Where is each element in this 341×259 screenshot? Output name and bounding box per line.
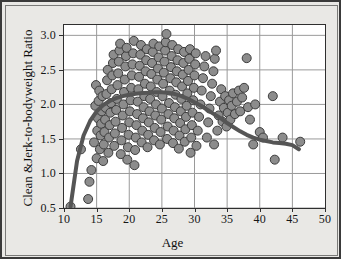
y-tick-mark — [59, 139, 64, 140]
data-point — [191, 49, 200, 58]
data-point — [202, 133, 211, 142]
data-point — [296, 137, 305, 146]
y-tick-mark — [59, 35, 64, 36]
data-point — [197, 86, 206, 95]
data-point — [195, 112, 204, 121]
y-tick-label: 0.5 — [20, 201, 56, 216]
data-points-group — [66, 29, 305, 208]
y-tick-label: 1.5 — [20, 131, 56, 146]
data-point — [249, 140, 258, 149]
data-point — [193, 126, 202, 135]
y-tick-label: 3.0 — [20, 28, 56, 43]
data-point — [245, 115, 254, 124]
y-tick-mark — [59, 208, 64, 209]
data-point — [87, 166, 96, 175]
data-point — [242, 54, 251, 63]
y-tick-label: 1.0 — [20, 166, 56, 181]
x-tick-label: 50 — [319, 212, 331, 227]
data-point — [200, 62, 209, 71]
data-point — [210, 54, 219, 63]
y-tick-mark — [59, 173, 64, 174]
data-point — [143, 143, 152, 152]
data-point — [84, 195, 93, 204]
data-point — [201, 52, 210, 61]
plot-area — [63, 24, 326, 209]
x-tick-label: 40 — [254, 212, 266, 227]
figure-container: Clean &Jerk-to-bodyweight Ratio 10152025… — [0, 0, 341, 259]
x-tick-label: 25 — [156, 212, 168, 227]
data-point — [131, 145, 140, 154]
data-point — [208, 79, 217, 88]
data-point — [206, 92, 215, 101]
data-point — [99, 157, 108, 166]
data-point — [251, 100, 260, 109]
data-point — [130, 161, 139, 170]
x-tick-label: 35 — [221, 212, 233, 227]
data-point — [187, 133, 196, 142]
data-point — [210, 140, 219, 149]
data-point — [162, 29, 171, 38]
data-point — [209, 67, 218, 76]
data-point — [192, 141, 201, 150]
data-point — [191, 60, 200, 69]
x-tick-label: 20 — [123, 212, 135, 227]
x-tick-label: 10 — [58, 212, 70, 227]
data-point — [85, 177, 94, 186]
data-point — [190, 71, 199, 80]
data-point — [212, 46, 221, 55]
y-tick-label: 2.5 — [20, 62, 56, 77]
x-tick-label: 45 — [286, 212, 298, 227]
x-axis-title: Age — [2, 235, 341, 251]
y-tick-mark — [59, 70, 64, 71]
y-tick-mark — [59, 104, 64, 105]
scatter-plot-svg — [64, 25, 325, 208]
y-tick-label: 2.0 — [20, 97, 56, 112]
data-point — [204, 118, 213, 127]
x-tick-label: 30 — [188, 212, 200, 227]
data-point — [270, 155, 279, 164]
x-tick-label: 15 — [90, 212, 102, 227]
data-point — [278, 133, 287, 142]
data-point — [238, 93, 247, 102]
data-point — [268, 92, 277, 101]
data-point — [240, 83, 249, 92]
data-point — [213, 126, 222, 135]
data-point — [198, 74, 207, 83]
